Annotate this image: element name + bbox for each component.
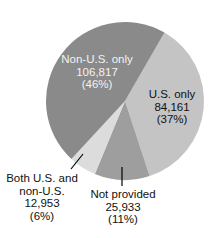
label-both: Both U.S. and non-U.S. 12,953 (6%) (2, 172, 82, 222)
label-percent: (46%) (52, 78, 142, 91)
label-percent: (6%) (2, 210, 82, 223)
label-text: Non-U.S. only (52, 53, 142, 66)
label-us: U.S. only 84,161 (37%) (140, 88, 204, 126)
label-value: 106,817 (52, 66, 142, 79)
label-text: Both U.S. and (2, 172, 82, 185)
label-percent: (37%) (140, 113, 204, 126)
label-not-provided: Not provided 25,933 (11%) (88, 188, 158, 226)
label-text: Not provided (88, 188, 158, 201)
label-text: non-U.S. (2, 185, 82, 198)
label-non-us: Non-U.S. only 106,817 (46%) (52, 53, 142, 91)
label-value: 84,161 (140, 101, 204, 114)
label-percent: (11%) (88, 213, 158, 226)
label-value: 25,933 (88, 201, 158, 214)
label-text: U.S. only (140, 88, 204, 101)
label-value: 12,953 (2, 197, 82, 210)
